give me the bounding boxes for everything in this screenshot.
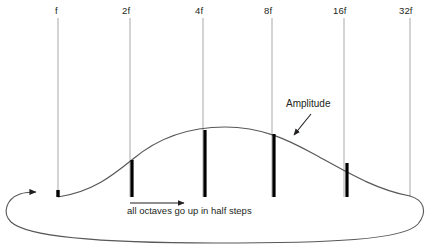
tick-label-4f: 4f xyxy=(195,5,203,16)
tick-label-16f: 16f xyxy=(333,5,347,16)
amplitude-callout-arrow xyxy=(294,114,311,135)
octaves-caption-label: all octaves go up in half steps xyxy=(127,205,252,216)
figure-canvas: f 2f 4f 8f 16f 32f Amplitude all octaves… xyxy=(0,0,429,245)
gridlines xyxy=(58,18,410,197)
amplitude-annotation-label: Amplitude xyxy=(286,98,330,109)
tick-label-f: f xyxy=(55,5,58,16)
tick-label-8f: 8f xyxy=(264,5,272,16)
tick-label-32f: 32f xyxy=(399,5,413,16)
tick-label-2f: 2f xyxy=(122,5,130,16)
amplitude-envelope-curve xyxy=(58,127,410,197)
octave-wrap-loop xyxy=(6,192,423,243)
